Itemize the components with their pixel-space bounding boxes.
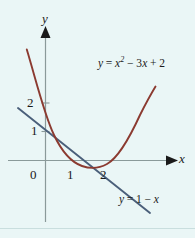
parabola-eq-op2: + <box>150 57 157 69</box>
y-axis-arrowhead <box>41 26 51 38</box>
line-eq-const: 1 <box>136 193 142 205</box>
bottom-divider <box>0 228 195 229</box>
origin-label-0: 0 <box>30 168 37 181</box>
x-axis-label: x <box>179 152 185 165</box>
parabola-eq-exponent: 2 <box>120 55 124 64</box>
y-tick-label-1: 1 <box>31 124 38 137</box>
graph-canvas <box>0 0 195 238</box>
line-eq-equals: = <box>127 193 134 205</box>
function-graph-figure: y x 2 1 0 1 2 y=x2−3x+2 y=1−x <box>0 0 195 238</box>
line-equation-label: y=1−x <box>119 194 159 206</box>
y-tick-label-2: 2 <box>27 96 34 109</box>
line-eq-var: x <box>154 193 159 205</box>
line-eq-lhs: y <box>119 193 124 205</box>
parabola-eq-var2: x <box>142 57 147 69</box>
x-axis-arrowhead <box>166 156 178 166</box>
parabola-eq-op1: − <box>127 57 134 69</box>
line-eq-op1: − <box>144 193 151 205</box>
parabola-eq-lhs: y <box>98 57 103 69</box>
parabola-eq-equals: = <box>106 57 113 69</box>
x-tick-label-1: 1 <box>67 168 74 181</box>
parabola-equation-label: y=x2−3x+2 <box>98 58 165 70</box>
x-tick-label-2: 2 <box>100 168 107 181</box>
y-axis-label: y <box>42 12 48 25</box>
parabola-eq-const: 2 <box>159 57 165 69</box>
